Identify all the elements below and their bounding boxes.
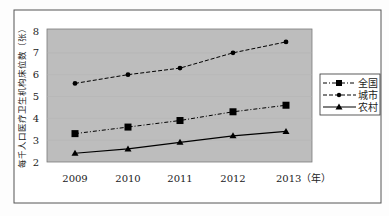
y-tick-6: 6 [33, 69, 39, 80]
square-marker-icon [283, 102, 290, 109]
chart: 8 7 6 5 4 3 2 每千人口医疗卫生机构床位数（张） 2009 2010… [0, 0, 389, 216]
legend-label-rural: 农村 [358, 101, 378, 113]
x-tick-2012: 2012 [220, 173, 245, 184]
circle-marker-icon [126, 72, 131, 77]
x-tick-2013: 2013（年） [276, 172, 331, 184]
circle-marker-icon [337, 93, 341, 97]
square-marker-icon [125, 124, 132, 131]
y-tick-8: 8 [33, 26, 39, 37]
circle-marker-icon [178, 66, 183, 71]
y-tick-4: 4 [33, 113, 39, 124]
square-marker-icon [72, 130, 79, 137]
y-axis-title: 每千人口医疗卫生机构床位数（张） [17, 24, 27, 168]
legend-label-urban: 城市 [358, 89, 378, 101]
y-tick-7: 7 [33, 47, 39, 58]
circle-marker-icon [73, 81, 78, 86]
circle-marker-icon [284, 40, 289, 45]
square-marker-icon [336, 80, 342, 86]
square-marker-icon [177, 117, 184, 124]
x-tick-2010: 2010 [115, 173, 140, 184]
y-tick-2: 2 [33, 157, 39, 168]
legend: 全国 城市 农村 [320, 74, 380, 115]
square-marker-icon [230, 108, 237, 115]
y-tick-3: 3 [33, 135, 39, 146]
y-tick-5: 5 [33, 91, 39, 102]
legend-label-national: 全国 [358, 77, 378, 89]
x-tick-2011: 2011 [167, 173, 192, 184]
x-tick-2009: 2009 [62, 173, 87, 184]
circle-marker-icon [231, 50, 236, 55]
